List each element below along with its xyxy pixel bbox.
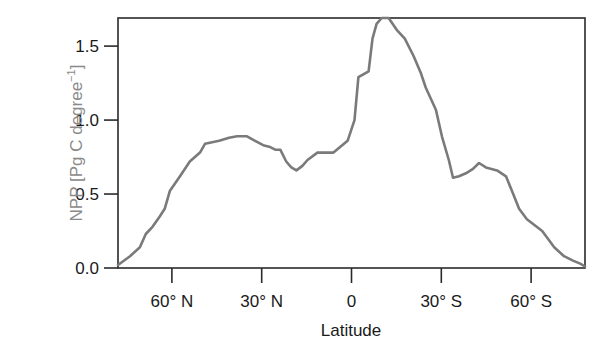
- npp-latitude-chart: 0.00.51.01.5 60° N30° N030° S60° S Latit…: [0, 0, 615, 348]
- x-tick-label: 60° S: [510, 292, 552, 311]
- x-tick-label: 30° S: [420, 292, 462, 311]
- x-axis-ticks: 60° N30° N030° S60° S: [151, 268, 552, 311]
- y-axis-title-main: NPP [Pg C degree: [67, 82, 86, 222]
- y-axis-title-exponent: −1: [65, 69, 77, 82]
- x-axis-title: Latitude: [321, 321, 382, 340]
- npp-series-line: [118, 18, 585, 267]
- y-tick-label: 1.5: [75, 37, 99, 56]
- y-axis-title: NPP [Pg C degree−1]: [65, 65, 86, 222]
- x-tick-label: 0: [347, 292, 356, 311]
- y-axis-title-close: ]: [67, 65, 86, 70]
- x-tick-label: 30° N: [240, 292, 283, 311]
- y-tick-label: 0.0: [75, 259, 99, 278]
- x-tick-label: 60° N: [151, 292, 194, 311]
- plot-frame: [118, 18, 585, 268]
